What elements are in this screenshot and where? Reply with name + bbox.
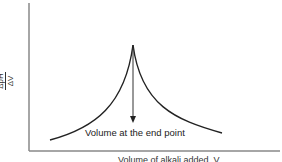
x-axis-label: Volume of alkali added, V: [118, 155, 220, 162]
curve-left: [50, 45, 133, 140]
y-axis-label: ΔpH ΔV: [0, 72, 26, 90]
end-point-annotation: Volume at the end point: [85, 127, 185, 138]
y-label-denominator: ΔV: [6, 76, 15, 87]
curve-right: [133, 45, 222, 133]
arrow-down-icon: [130, 116, 136, 123]
